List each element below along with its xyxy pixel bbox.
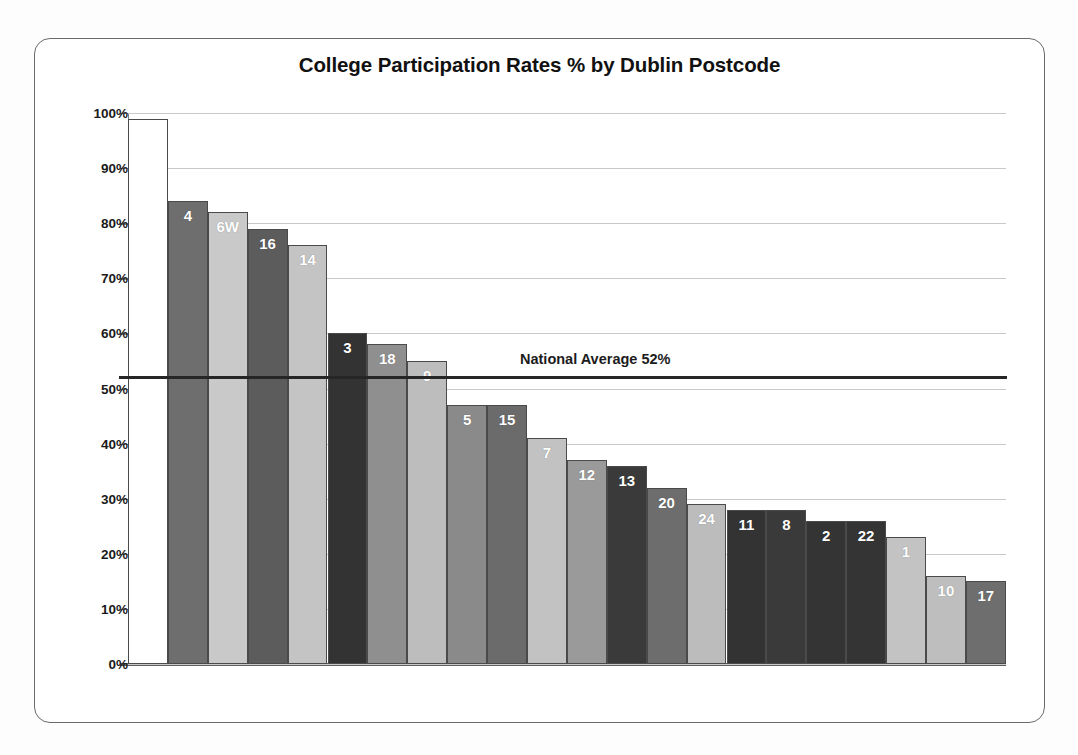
national-average-line [119,376,1007,379]
y-axis-tick-labels: 100%90%80%70%60%50%40%30%20%10%0% [68,113,128,664]
bar: 22 [846,521,886,664]
bar: 16 [248,229,288,664]
bar [128,119,168,664]
bar: 13 [607,466,647,664]
bar-category-label: 16 [259,236,276,663]
bar: 5 [447,405,487,664]
y-axis-tick-label: 80% [70,216,128,231]
y-axis-tick-label: 90% [70,161,128,176]
bar-category-label: 5 [463,412,471,663]
y-axis-tick-label: 20% [70,546,128,561]
bar-category-label: 2 [822,528,830,663]
national-average-label: National Average 52% [520,351,670,367]
page-background: College Participation Rates % by Dublin … [0,0,1078,755]
bar: 10 [926,576,966,664]
y-axis-tick-label: 100% [70,106,128,121]
bar-category-label: 20 [658,495,675,663]
bar-category-label: 12 [578,467,595,663]
bar: 1 [886,537,926,664]
bar-category-label: 1 [902,544,910,663]
bar: 9 [407,361,447,664]
bar: 3 [328,333,368,664]
bar: 20 [647,488,687,664]
y-axis-tick-label: 10% [70,601,128,616]
y-axis-tick-label: 40% [70,436,128,451]
y-axis-tick-label: 60% [70,326,128,341]
plot-area: 100%90%80%70%60%50%40%30%20%10%0% 46W161… [128,113,1006,664]
chart-title: College Participation Rates % by Dublin … [35,53,1044,77]
gridline [128,664,1006,665]
bar-category-label: 11 [739,517,755,663]
bar: 12 [567,460,607,664]
bar: 7 [527,438,567,664]
bar-category-label: 15 [499,412,516,663]
bar: 14 [288,245,328,664]
bar: 17 [966,581,1006,664]
bar-category-label: 14 [299,252,316,663]
bar-category-label: 8 [782,517,790,663]
y-axis-tick-label: 50% [70,381,128,396]
bar-category-label: 24 [698,511,715,663]
bar-category-label: 17 [977,588,994,663]
gridline [128,223,1006,224]
bar-category-label: 13 [618,473,635,663]
y-axis-tick-label: 70% [70,271,128,286]
gridline [128,168,1006,169]
bar: 18 [367,344,407,664]
bar: 11 [727,510,767,664]
bar-category-label: 10 [938,583,955,663]
bar: 8 [766,510,806,664]
bar-category-label: 4 [184,208,192,663]
y-axis-tick-label: 30% [70,491,128,506]
bar-category-label: 6W [216,219,239,663]
bar-category-label: 9 [423,368,431,663]
gridline [128,113,1006,114]
bar-category-label: 22 [858,528,875,663]
bar: 24 [687,504,727,664]
bar: 6W [208,212,248,664]
bar-category-label: 7 [543,445,551,663]
bar: 4 [168,201,208,664]
bar-category-label: 3 [343,340,351,663]
bar: 15 [487,405,527,664]
bar: 2 [806,521,846,664]
bar-category-label: 18 [379,351,396,663]
y-axis-tick-label: 0% [70,657,128,672]
chart-frame: College Participation Rates % by Dublin … [34,38,1045,723]
